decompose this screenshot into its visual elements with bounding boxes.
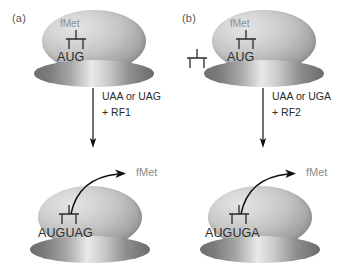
panel-a-top-fmet-label: fMet [60,18,79,29]
termination-figure: (a) fMet AUG UAA or UAG + RF1 [0,0,339,276]
panel-a: (a) fMet AUG UAA or UAG + RF1 [0,0,169,276]
panel-a-reaction-line1: UAA or UAG [102,89,161,103]
panel-b-reaction-line2: + RF2 [272,105,301,119]
panel-b-reaction-line1: UAA or UGA [272,89,331,103]
trna-glyph [63,30,89,52]
panel-b-bottom-codon: AUGUGA [205,226,260,240]
panel-b-release-arrow [236,168,306,216]
panel-b-top-codon: AUG [227,50,254,64]
panel-a-reaction-line2: + RF1 [102,105,131,119]
panel-a-bottom-codon: AUGUAG [38,226,93,240]
panel-b-top-ribosome [204,10,324,88]
panel-b-top-fmet-label: fMet [230,18,249,29]
panel-a-label: (a) [12,12,26,24]
trna-glyph [233,30,259,52]
panel-b-label: (b) [182,12,196,24]
panel-a-release-arrow [66,168,136,216]
panel-a-reaction-arrow [88,88,102,150]
small-subunit [30,236,150,263]
panel-a-top-ribosome [34,10,154,88]
panel-b-released-fmet-label: fMet [306,166,327,178]
panel-b-reaction-arrow [258,88,272,150]
small-subunit [34,60,154,87]
panel-a-top-codon: AUG [57,50,84,64]
panel-b: (b) fMet AUG UAA or UGA + RF2 [170,0,339,276]
small-subunit [200,236,320,263]
small-subunit [204,60,324,87]
panel-a-released-fmet-label: fMet [136,166,157,178]
